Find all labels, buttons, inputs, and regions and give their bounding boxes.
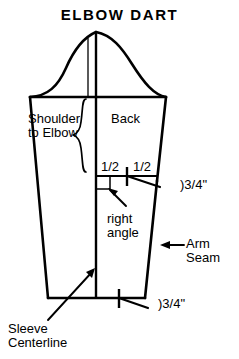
label-dart-half-left: 1/2 [101,160,119,174]
right-angle-marker-icon [96,176,110,189]
label-back: Back [111,112,140,126]
label-dart-opening-measurement: )3/4" [180,178,207,192]
sleeve-cap-left-curve [30,32,96,97]
dart-wedge-leg [127,176,160,187]
arm-seam-upper [157,97,166,181]
label-dart-half-right: 1/2 [133,160,151,174]
label-shoulder-to-elbow: Shoulder to Elbow [28,112,80,139]
arm-seam-lower [145,181,157,298]
label-hem-opening-measurement: )3/4" [158,297,185,311]
arm-seam-arrow-head-icon [160,241,170,249]
label-sleeve-centerline: Sleeve Centerline [8,322,67,349]
label-right-angle: right angle [107,212,139,239]
elbow-dart-figure: ELBOW DART [0,0,239,359]
sleeve-centerline-arrow-shaft [48,272,92,320]
sleeve-cap-right-curve [96,32,166,97]
hem-wedge-leg [119,298,148,308]
right-angle-arrow-head-icon [108,188,118,196]
label-arm-seam: Arm Seam [186,237,220,264]
